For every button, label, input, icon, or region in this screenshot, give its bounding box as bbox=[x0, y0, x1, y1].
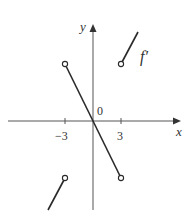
tick-label-3: 3 bbox=[117, 129, 123, 143]
open-endpoint bbox=[62, 175, 67, 180]
derivative-graph: y x 0 −3 3 f′ bbox=[0, 0, 183, 216]
open-endpoint bbox=[118, 175, 123, 180]
x-axis-label: x bbox=[175, 124, 182, 139]
origin-label: 0 bbox=[97, 104, 103, 118]
function-label: f′ bbox=[140, 48, 148, 66]
tick-label-neg3: −3 bbox=[55, 129, 68, 143]
left-branch bbox=[48, 178, 65, 210]
y-axis-arrow-icon bbox=[90, 24, 97, 32]
right-branch bbox=[121, 32, 138, 64]
y-axis-label: y bbox=[78, 19, 86, 34]
open-endpoint bbox=[62, 61, 67, 66]
open-endpoint bbox=[118, 61, 123, 66]
